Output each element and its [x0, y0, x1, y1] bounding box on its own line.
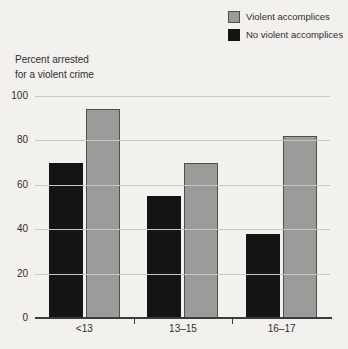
- plot-area: 020406080100: [35, 96, 331, 318]
- black-swatch-icon: [228, 29, 240, 41]
- y-axis-title-line2: for a violent crime: [15, 67, 94, 82]
- x-axis-labels: <1313–1516–17: [35, 323, 331, 335]
- y-tick-label: 100: [11, 91, 28, 101]
- bar-groups: [35, 96, 331, 318]
- gridline: [35, 229, 330, 230]
- x-tick-label: 16–17: [246, 323, 317, 335]
- y-axis-title-line1: Percent arrested: [15, 52, 94, 67]
- bar: [283, 136, 317, 318]
- gridline: [35, 274, 330, 275]
- gridline: [35, 96, 330, 97]
- chart-panel: Violent accomplices No violent accomplic…: [0, 0, 348, 349]
- y-tick-label: 40: [17, 224, 28, 234]
- legend-label: No violent accomplices: [246, 29, 343, 41]
- y-axis-title: Percent arrested for a violent crime: [15, 52, 94, 82]
- x-axis-line: [35, 317, 332, 319]
- chart-legend: Violent accomplices No violent accomplic…: [228, 11, 343, 41]
- bar: [49, 163, 83, 318]
- y-tick-label: 0: [22, 313, 28, 323]
- x-tick-label: <13: [49, 323, 120, 335]
- gridline: [35, 140, 330, 141]
- bar-group-16–17: [246, 136, 317, 318]
- legend-item-no-violent-accomplices: No violent accomplices: [228, 29, 343, 41]
- legend-item-violent-accomplices: Violent accomplices: [228, 11, 343, 23]
- y-tick-label: 80: [17, 135, 28, 145]
- gray-swatch-icon: [228, 11, 240, 23]
- y-tick-label: 20: [17, 269, 28, 279]
- x-tick-label: 13–15: [147, 323, 218, 335]
- gridline: [35, 185, 330, 186]
- bar: [246, 234, 280, 318]
- legend-label: Violent accomplices: [246, 11, 330, 23]
- y-tick-label: 60: [17, 180, 28, 190]
- bar: [184, 163, 218, 318]
- bar: [147, 196, 181, 318]
- bar-group-13–15: [147, 163, 218, 318]
